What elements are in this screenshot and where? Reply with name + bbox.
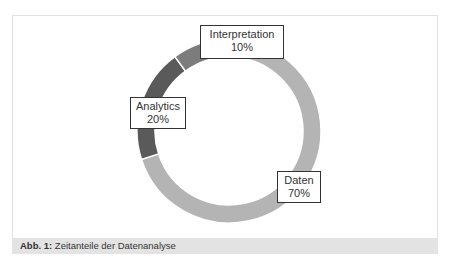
- label-name: Daten: [282, 174, 316, 187]
- data-label-interpretation: Interpretation 10%: [200, 25, 284, 59]
- label-percent: 10%: [205, 41, 279, 54]
- label-percent: 20%: [135, 113, 181, 126]
- caption-prefix: Abb. 1:: [20, 240, 52, 251]
- caption-text: Zeitanteile der Datenanalyse: [52, 240, 176, 251]
- label-name: Interpretation: [205, 28, 279, 41]
- label-name: Analytics: [135, 100, 181, 113]
- label-percent: 70%: [282, 187, 316, 200]
- data-label-daten: Daten 70%: [277, 171, 321, 203]
- figure-caption: Abb. 1: Zeitanteile der Datenanalyse: [12, 238, 438, 254]
- data-label-analytics: Analytics 20%: [130, 97, 186, 129]
